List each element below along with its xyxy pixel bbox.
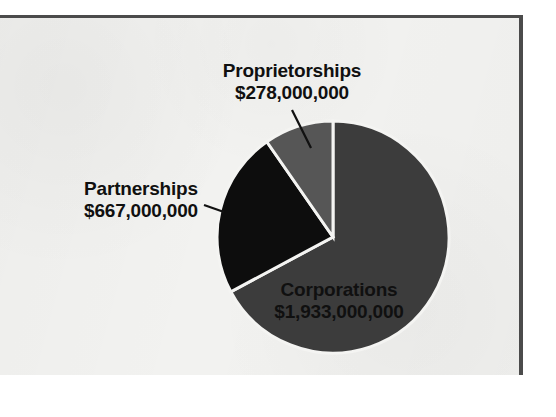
- slice-label-partnerships-category: Partnerships: [56, 178, 226, 200]
- slice-label-corporations-category: Corporations: [247, 279, 431, 301]
- slice-label-proprietorships-category: Proprietorships: [194, 60, 390, 82]
- slice-label-proprietorships-amount: $278,000,000: [194, 82, 390, 104]
- slice-label-corporations: Corporations $1,933,000,000: [247, 279, 431, 323]
- pie-chart-figure: Proprietorships $278,000,000 Partnership…: [0, 0, 556, 417]
- slice-label-proprietorships: Proprietorships $278,000,000: [194, 60, 390, 104]
- chart-plot-area: Proprietorships $278,000,000 Partnership…: [0, 0, 556, 417]
- slice-label-partnerships: Partnerships $667,000,000: [56, 178, 226, 222]
- slice-label-corporations-amount: $1,933,000,000: [247, 301, 431, 323]
- slice-label-partnerships-amount: $667,000,000: [56, 200, 226, 222]
